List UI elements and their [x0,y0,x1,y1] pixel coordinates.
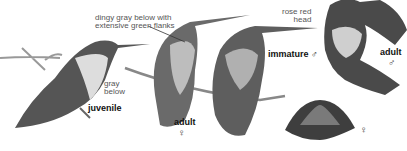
annotation-line: below [104,88,125,96]
annotation-gray-below: gray below [104,80,125,96]
label-juvenile: juvenile [88,104,122,112]
female-symbol-icon: ♀ [178,127,186,138]
annotation-rose-red-head: rose red head [282,8,311,24]
female-tail-fan-figure [285,100,355,140]
hummingbird-illustrations [0,0,407,151]
illustration-plate: dingy gray below with extensive green fl… [0,0,407,151]
label-immature-male: immature ♂ [268,50,318,58]
label-adult-male: adult [380,48,402,56]
male-symbol-icon: ♂ [388,57,396,68]
annotation-line: head [282,16,311,24]
annotation-line: extensive green flanks [95,22,175,30]
label-adult-female: adult [174,118,196,126]
annotation-dingy-gray: dingy gray below with extensive green fl… [95,14,175,30]
juvenile-bird-figure [15,41,150,128]
female-symbol-icon: ♀ [360,124,368,135]
